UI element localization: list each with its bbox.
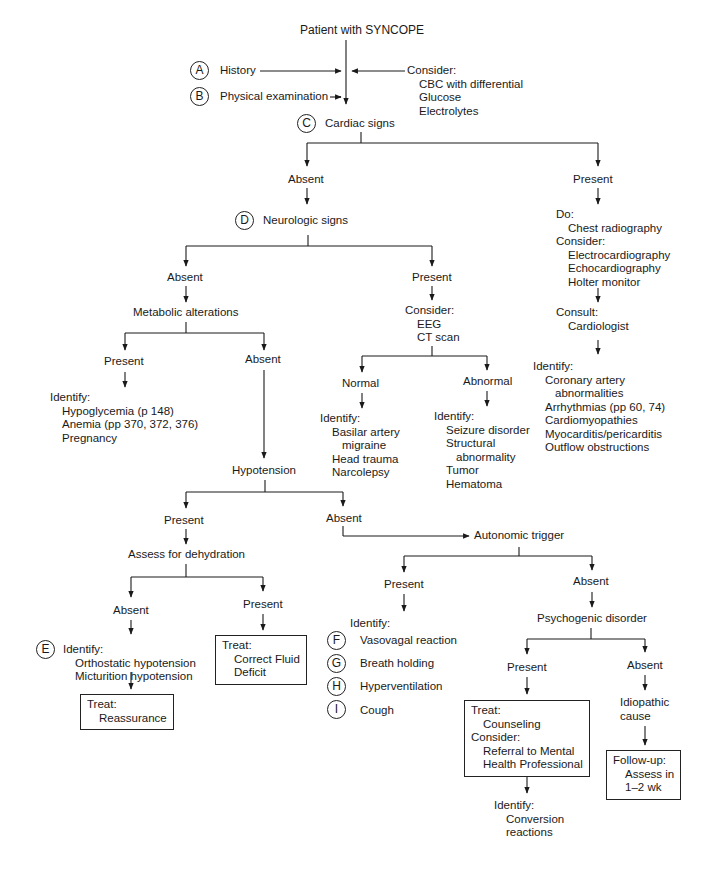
marker-e-icon: E	[36, 640, 55, 659]
followup-box: Follow-up: Assess in 1–2 wk	[606, 750, 681, 800]
marker-c-icon: C	[297, 114, 316, 133]
identify-item: Pregnancy	[50, 432, 198, 446]
identify-item: Micturition hypotension	[63, 670, 196, 684]
identify-item: migraine	[320, 439, 400, 453]
identify-item: Hematoma	[434, 478, 530, 492]
treat-item: Correct Fluid	[222, 653, 300, 667]
marker-b-icon: B	[190, 87, 209, 106]
identify-item: Arrhythmias (pp 60, 74)	[533, 401, 665, 415]
do-heading: Do:	[556, 208, 670, 222]
trigger-breath-holding: Breath holding	[360, 657, 434, 671]
idiopathic-line: Idiopathic	[620, 696, 669, 710]
consider-labs-block: Consider: CBC with differential Glucose …	[407, 64, 523, 118]
identify-heading: Identify:	[320, 412, 400, 426]
consider-item: Glucose	[407, 91, 523, 105]
identify-item: Structural	[434, 437, 530, 451]
metabolic-absent-label: Absent	[245, 353, 281, 367]
metabolic-identify-block: Identify: Hypoglycemia (p 148) Anemia (p…	[50, 391, 198, 445]
followup-item: 1–2 wk	[613, 781, 674, 795]
neuro-absent-label: Absent	[167, 271, 203, 285]
neurologic-signs-label: Neurologic signs	[263, 214, 348, 228]
consider-item: Referral to Mental	[471, 745, 583, 759]
idiopathic-cause-block: Idiopathic cause	[620, 696, 669, 723]
treat-item: Reassurance	[87, 712, 167, 726]
identify-item: Seizure disorder	[434, 424, 530, 438]
psychogenic-absent-label: Absent	[627, 659, 663, 673]
hypotension-absent-label: Absent	[326, 512, 362, 526]
psychogenic-present-label: Present	[507, 661, 547, 675]
identify-item: Narcolepsy	[320, 466, 400, 480]
consult-item: Cardiologist	[556, 320, 629, 334]
identify-item: Outflow obstructions	[533, 441, 665, 455]
identify-item: abnormality	[434, 451, 530, 465]
normal-label: Normal	[342, 377, 379, 391]
treat-heading: Treat:	[87, 698, 167, 712]
identify-item: Anemia (pp 370, 372, 376)	[50, 418, 198, 432]
identify-heading: Identify:	[63, 643, 196, 657]
idiopathic-line: cause	[620, 710, 669, 724]
trigger-cough: Cough	[360, 704, 394, 718]
autonomic-absent-label: Absent	[573, 575, 609, 589]
orthostatic-identify-block: Identify: Orthostatic hypotension Mictur…	[63, 643, 196, 684]
hypotension-label: Hypotension	[232, 464, 296, 478]
abnormal-identify-block: Identify: Seizure disorder Structural ab…	[434, 410, 530, 491]
consider-heading: Consider:	[407, 64, 523, 78]
consider-heading: Consider:	[471, 731, 583, 745]
metabolic-present-label: Present	[104, 355, 144, 369]
history-label: History	[220, 64, 256, 78]
consider-item: Health Professional	[471, 758, 583, 772]
marker-h-icon: H	[327, 677, 346, 696]
do-item: Chest radiography	[556, 222, 670, 236]
identify-heading: Identify:	[434, 410, 530, 424]
assess-dehydration-label: Assess for dehydration	[128, 548, 245, 562]
treat-heading: Treat:	[471, 704, 583, 718]
marker-d-icon: D	[235, 211, 254, 230]
identify-item: Conversion	[494, 813, 564, 827]
identify-heading: Identify:	[533, 360, 665, 374]
autonomic-trigger-label: Autonomic trigger	[474, 529, 564, 543]
identify-item: Cardiomyopathies	[533, 414, 665, 428]
cardiac-identify-block: Identify: Coronary artery abnormalities …	[533, 360, 665, 455]
syncope-flowchart: Patient with SYNCOPE A History B Physica…	[0, 0, 721, 875]
treat-item: Deficit	[222, 666, 300, 680]
identify-item: abnormalities	[533, 387, 665, 401]
followup-heading: Follow-up:	[613, 754, 674, 768]
metabolic-alterations-label: Metabolic alterations	[133, 306, 238, 320]
followup-item: Assess in	[613, 768, 674, 782]
consider-heading: Consider:	[405, 304, 460, 318]
consider-item: Echocardiography	[556, 262, 670, 276]
cardiac-signs-label: Cardiac signs	[325, 117, 395, 131]
autonomic-identify-heading: Identify:	[350, 617, 390, 631]
physical-examination-label: Physical examination	[220, 90, 328, 104]
identify-item: Basilar artery	[320, 426, 400, 440]
identify-item: Myocarditis/pericarditis	[533, 428, 665, 442]
conversion-identify-block: Identify: Conversion reactions	[494, 799, 564, 840]
identify-item: Tumor	[434, 464, 530, 478]
consult-heading: Consult:	[556, 306, 629, 320]
treat-fluid-box: Treat: Correct Fluid Deficit	[215, 635, 307, 685]
consider-item: Electrocardiography	[556, 249, 670, 263]
consider-item: EEG	[405, 318, 460, 332]
cardiac-present-label: Present	[573, 173, 613, 187]
dehydration-present-label: Present	[243, 598, 283, 612]
dehydration-absent-label: Absent	[113, 604, 149, 618]
neuro-present-label: Present	[412, 271, 452, 285]
autonomic-present-label: Present	[384, 578, 424, 592]
identify-item: reactions	[494, 826, 564, 840]
treat-heading: Treat:	[222, 639, 300, 653]
identify-item: Coronary artery	[533, 374, 665, 388]
neuro-consider-block: Consider: EEG CT scan	[405, 304, 460, 345]
treat-reassurance-box: Treat: Reassurance	[80, 694, 174, 730]
title-patient-with-syncope: Patient with SYNCOPE	[300, 24, 424, 38]
hypotension-present-label: Present	[164, 514, 204, 528]
consider-item: Electrolytes	[407, 105, 523, 119]
cardiac-absent-label: Absent	[288, 173, 324, 187]
normal-identify-block: Identify: Basilar artery migraine Head t…	[320, 412, 400, 480]
cardiac-workup-block: Do: Chest radiography Consider: Electroc…	[556, 208, 670, 289]
abnormal-label: Abnormal	[463, 375, 512, 389]
marker-i-icon: I	[327, 700, 346, 719]
trigger-vasovagal: Vasovagal reaction	[360, 634, 457, 648]
treat-item: Counseling	[471, 718, 583, 732]
consider-item: CT scan	[405, 331, 460, 345]
identify-item: Head trauma	[320, 453, 400, 467]
